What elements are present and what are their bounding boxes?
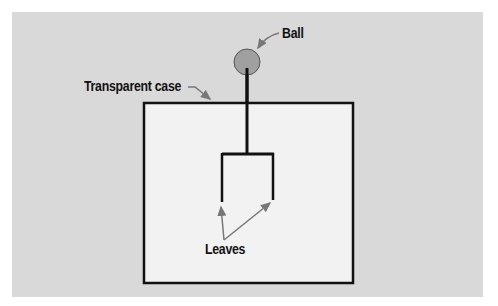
ball-label: Ball: [282, 25, 304, 41]
case-arrow: [188, 87, 210, 99]
leaves-label: Leaves: [205, 241, 245, 257]
case-label: Transparent case: [84, 78, 181, 94]
electroscope-diagram: [0, 0, 498, 306]
ball-arrow: [258, 33, 279, 48]
